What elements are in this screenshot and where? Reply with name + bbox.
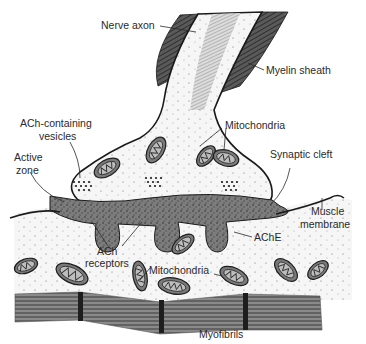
label-myelin-sheath: Myelin sheath	[266, 64, 331, 76]
label-ach-receptors: receptors	[85, 257, 129, 269]
label-ach-vesicles: ACh-containing	[20, 117, 92, 129]
label-active-zone: Active	[14, 151, 43, 163]
z-band	[78, 292, 83, 321]
label-synaptic-cleft: Synaptic cleft	[270, 148, 333, 160]
label-active-zone: zone	[16, 164, 39, 176]
label-muscle-membrane: membrane	[300, 218, 350, 230]
label-nerve-axon: Nerve axon	[101, 19, 155, 31]
z-band	[159, 300, 164, 333]
label-ach-receptors: ACh	[97, 245, 118, 257]
leader-synaptic-cleft	[270, 168, 290, 205]
label-myofibrils: Myofibrils	[199, 328, 243, 340]
label-mitochondria-bottom: Mitochondria	[149, 264, 209, 276]
label-ache: AChE	[254, 231, 281, 243]
neuromuscular-junction-diagram: Nerve axon Myelin sheath ACh-containing …	[0, 0, 366, 344]
label-mitochondria-top: Mitochondria	[225, 119, 285, 131]
z-band	[243, 293, 248, 330]
label-muscle-membrane: Muscle	[311, 205, 344, 217]
label-ach-vesicles: vesicles	[39, 130, 76, 142]
